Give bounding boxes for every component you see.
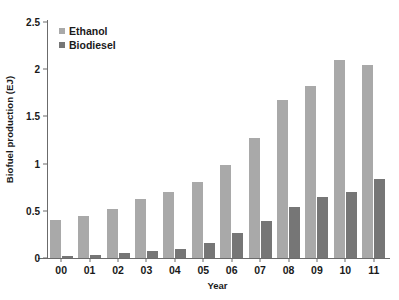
x-axis-tick-label: 01 (84, 264, 96, 276)
x-axis-tick-mark (203, 258, 204, 262)
y-axis-tick: 1 (34, 158, 47, 169)
x-axis-tick-label: 09 (311, 264, 323, 276)
y-axis-tick-mark (43, 163, 47, 164)
bar-biodiesel-05 (204, 243, 215, 258)
bar-ethanol-01 (78, 216, 89, 258)
bar-biodiesel-07 (261, 221, 272, 258)
bar-ethanol-09 (305, 86, 316, 258)
bar-ethanol-07 (249, 138, 260, 258)
y-axis-tick-label: 1.5 (26, 111, 43, 122)
x-axis-tick-label: 10 (340, 264, 352, 276)
y-axis-tick-mark (43, 116, 47, 117)
bar-biodiesel-00 (62, 256, 73, 258)
bar-biodiesel-09 (317, 197, 328, 258)
x-axis-tick-label: 02 (112, 264, 124, 276)
legend-item-biodiesel: Biodiesel (59, 38, 116, 52)
x-axis-tick-label: 00 (55, 264, 67, 276)
y-axis-tick-mark (43, 258, 47, 259)
legend-label-ethanol: Ethanol (69, 25, 108, 37)
y-axis-tick: 1.5 (26, 111, 47, 122)
bar-ethanol-04 (163, 192, 174, 258)
legend-swatch-biodiesel (59, 42, 65, 48)
x-axis-tick-mark (89, 258, 90, 262)
plot-area: 00.511.522.5 (47, 22, 388, 258)
legend-label-biodiesel: Biodiesel (69, 39, 116, 51)
y-axis-tick-label: 2 (34, 64, 43, 75)
x-axis-tick-mark (118, 258, 119, 262)
bar-ethanol-03 (135, 199, 146, 258)
x-axis-tick-mark (373, 258, 374, 262)
bar-biodiesel-02 (119, 253, 130, 258)
x-axis-title: Year (47, 280, 388, 291)
y-axis-title: Biofuel production (EJ) (0, 0, 20, 258)
y-axis-tick-label: 2.5 (26, 17, 43, 28)
bar-ethanol-10 (334, 60, 345, 258)
bar-ethanol-08 (277, 100, 288, 258)
bar-biodiesel-03 (147, 251, 158, 258)
x-axis-tick-mark (146, 258, 147, 262)
bar-ethanol-05 (192, 182, 203, 258)
y-axis-tick-label: 0.5 (26, 205, 43, 216)
legend-item-ethanol: Ethanol (59, 24, 116, 38)
x-axis-tick-mark (260, 258, 261, 262)
x-axis-tick-label: 05 (197, 264, 209, 276)
x-axis-tick-mark (345, 258, 346, 262)
x-axis-tick-label: 03 (141, 264, 153, 276)
bar-ethanol-02 (107, 209, 118, 258)
x-axis-tick-mark (174, 258, 175, 262)
x-axis-line (38, 258, 390, 259)
bar-ethanol-06 (220, 165, 231, 258)
x-axis-tick-label: 11 (368, 264, 379, 276)
x-axis-tick-label: 06 (226, 264, 238, 276)
x-axis-tick-label: 04 (169, 264, 181, 276)
x-axis-tick-mark (231, 258, 232, 262)
y-axis-tick-mark (43, 22, 47, 23)
y-axis-tick-mark (43, 210, 47, 211)
bar-ethanol-11 (362, 65, 373, 258)
x-axis-tick-mark (288, 258, 289, 262)
bar-biodiesel-06 (232, 233, 243, 258)
bar-biodiesel-11 (374, 179, 385, 258)
y-axis-tick-mark (43, 69, 47, 70)
x-axis-tick-mark (316, 258, 317, 262)
bar-biodiesel-08 (289, 207, 300, 258)
x-axis-tick-label: 07 (254, 264, 266, 276)
legend-swatch-ethanol (59, 28, 65, 34)
bar-biodiesel-04 (175, 249, 186, 258)
y-axis-tick: 2.5 (26, 17, 47, 28)
y-axis-tick: 2 (34, 64, 47, 75)
y-axis-tick-label: 0 (34, 253, 43, 264)
y-axis-tick-label: 1 (34, 158, 43, 169)
y-axis-tick: 0 (34, 253, 47, 264)
bar-biodiesel-10 (346, 192, 357, 258)
bar-biodiesel-01 (90, 255, 101, 258)
biofuel-production-bar-chart: Biofuel production (EJ) 00.511.522.5 Yea… (0, 0, 399, 300)
chart-legend: Ethanol Biodiesel (59, 24, 116, 52)
y-axis-title-text: Biofuel production (EJ) (5, 75, 16, 182)
y-axis-tick: 0.5 (26, 205, 47, 216)
x-axis-tick-mark (61, 258, 62, 262)
x-axis-tick-label: 08 (283, 264, 295, 276)
bar-ethanol-00 (50, 220, 61, 258)
